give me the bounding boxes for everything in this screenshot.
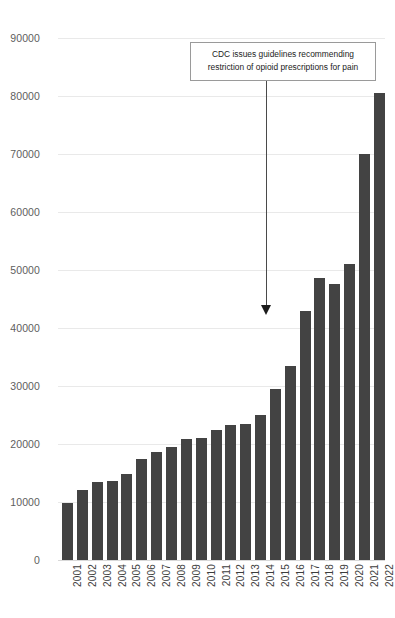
x-tick-label-2017: 2017: [310, 564, 321, 587]
y-tick-label-0: 0: [0, 554, 40, 566]
bar-2002[interactable]: [77, 490, 88, 560]
x-tick-label-2007: 2007: [161, 564, 172, 587]
bar-2012[interactable]: [225, 425, 236, 560]
bar-2007[interactable]: [151, 452, 162, 560]
plot-area: 0100002000030000400005000060000700008000…: [58, 30, 385, 560]
bar-chart: 0100002000030000400005000060000700008000…: [0, 0, 395, 618]
y-tick-label-70000: 70000: [0, 148, 40, 160]
x-tick-label-2005: 2005: [131, 564, 142, 587]
x-tick-label-2016: 2016: [295, 564, 306, 587]
bar-2018[interactable]: [314, 278, 325, 560]
bar-2022[interactable]: [374, 93, 385, 560]
x-tick-label-2001: 2001: [72, 564, 83, 587]
bars-group: [58, 30, 385, 560]
annotation-text-line-2: restriction of opioid prescriptions for …: [197, 61, 369, 74]
bar-2005[interactable]: [121, 474, 132, 560]
x-tick-label-2009: 2009: [191, 564, 202, 587]
x-tick-label-2020: 2020: [354, 564, 365, 587]
y-tick-label-80000: 80000: [0, 90, 40, 102]
annotation-arrowhead-icon: [261, 305, 271, 315]
x-tick-label-2011: 2011: [221, 564, 232, 586]
x-tick-label-2003: 2003: [102, 564, 113, 587]
y-tick-label-30000: 30000: [0, 380, 40, 392]
bar-2021[interactable]: [359, 154, 370, 560]
bar-2020[interactable]: [344, 264, 355, 560]
bar-2008[interactable]: [166, 447, 177, 560]
bar-2013[interactable]: [240, 424, 251, 560]
annotation-stem: [266, 81, 267, 307]
x-tick-label-2012: 2012: [235, 564, 246, 587]
bar-2017[interactable]: [300, 311, 311, 560]
y-tick-label-60000: 60000: [0, 206, 40, 218]
x-tick-label-2019: 2019: [339, 564, 350, 587]
x-tick-label-2022: 2022: [384, 564, 395, 587]
bar-2010[interactable]: [196, 438, 207, 560]
bar-2014[interactable]: [255, 415, 266, 560]
bar-2001[interactable]: [62, 503, 73, 560]
x-tick-label-2002: 2002: [87, 564, 98, 587]
x-tick-label-2013: 2013: [250, 564, 261, 587]
bar-2016[interactable]: [285, 366, 296, 560]
y-tick-label-50000: 50000: [0, 264, 40, 276]
bar-2009[interactable]: [181, 439, 192, 560]
gridline-0: [58, 560, 385, 561]
x-tick-label-2006: 2006: [146, 564, 157, 587]
bar-2003[interactable]: [92, 482, 103, 560]
x-tick-label-2014: 2014: [265, 564, 276, 587]
y-tick-label-20000: 20000: [0, 438, 40, 450]
bar-2004[interactable]: [107, 481, 118, 560]
x-tick-label-2018: 2018: [324, 564, 335, 587]
y-tick-label-40000: 40000: [0, 322, 40, 334]
annotation-callout: CDC issues guidelines recommendingrestri…: [190, 42, 376, 81]
x-tick-label-2010: 2010: [206, 564, 217, 587]
x-tick-label-2008: 2008: [176, 564, 187, 587]
bar-2006[interactable]: [136, 459, 147, 561]
x-tick-label-2021: 2021: [369, 564, 380, 587]
bar-2011[interactable]: [211, 430, 222, 560]
x-tick-label-2004: 2004: [117, 564, 128, 587]
annotation-text-line-1: CDC issues guidelines recommending: [197, 48, 369, 61]
y-tick-label-10000: 10000: [0, 496, 40, 508]
bar-2015[interactable]: [270, 389, 281, 560]
y-tick-label-90000: 90000: [0, 32, 40, 44]
x-tick-label-2015: 2015: [280, 564, 291, 587]
bar-2019[interactable]: [329, 284, 340, 560]
